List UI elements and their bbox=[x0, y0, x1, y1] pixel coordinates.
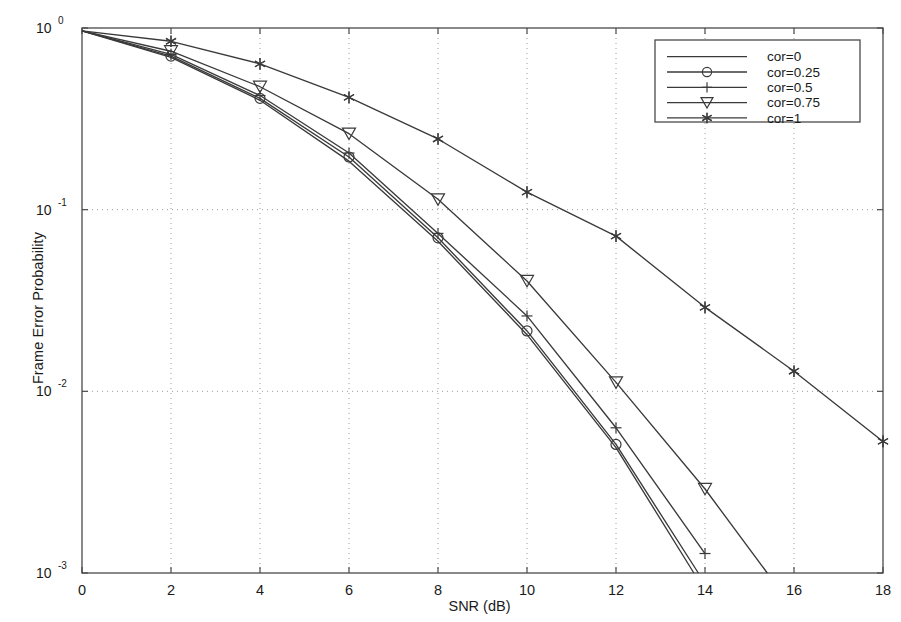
x-tick-label: 14 bbox=[697, 582, 713, 598]
x-tick-label: 4 bbox=[256, 582, 264, 598]
x-tick-label: 16 bbox=[786, 582, 802, 598]
x-tick-label: 6 bbox=[345, 582, 353, 598]
figure-root: 024681012141618 10010-110-210-3 cor=0cor… bbox=[0, 0, 901, 622]
y-tick-base: 10 bbox=[36, 20, 52, 36]
chart-figure: 024681012141618 10010-110-210-3 cor=0cor… bbox=[0, 0, 901, 622]
legend-label: cor=0 bbox=[767, 49, 801, 64]
series-cor-0 bbox=[82, 31, 694, 573]
x-tick-label: 8 bbox=[434, 582, 442, 598]
y-tick-base: 10 bbox=[36, 565, 52, 581]
series-line bbox=[82, 31, 698, 573]
legend-box bbox=[655, 40, 860, 122]
series-cor-0-25 bbox=[82, 31, 698, 573]
legend: cor=0cor=0.25cor=0.5cor=0.75cor=1 bbox=[655, 40, 860, 126]
legend-label: cor=0.75 bbox=[767, 95, 820, 110]
x-tick-label: 10 bbox=[519, 582, 535, 598]
y-axis-label: Frame Error Probability bbox=[30, 188, 46, 428]
x-tick-labels: 024681012141618 bbox=[78, 582, 891, 598]
series-line bbox=[82, 31, 694, 573]
y-tick-label: 100 bbox=[36, 15, 64, 36]
legend-label: cor=0.5 bbox=[767, 80, 812, 95]
y-tick-exponent: -1 bbox=[58, 197, 67, 208]
series-cor-0-5 bbox=[82, 31, 711, 559]
x-tick-label: 2 bbox=[167, 582, 175, 598]
x-tick-label: 12 bbox=[608, 582, 624, 598]
legend-label: cor=1 bbox=[767, 111, 801, 126]
x-tick-label: 0 bbox=[78, 582, 86, 598]
chart-svg: 024681012141618 10010-110-210-3 cor=0cor… bbox=[0, 0, 901, 622]
legend-label: cor=0.25 bbox=[767, 65, 820, 80]
x-axis-label: SNR (dB) bbox=[0, 598, 901, 614]
series-line bbox=[82, 31, 705, 554]
y-tick-label: 10-3 bbox=[36, 560, 67, 581]
y-tick-exponent: -2 bbox=[58, 378, 67, 389]
x-tick-label: 18 bbox=[875, 582, 891, 598]
x-axis-label-text: SNR (dB) bbox=[390, 598, 510, 614]
y-tick-exponent: -3 bbox=[58, 560, 67, 571]
y-tick-exponent: 0 bbox=[58, 15, 64, 26]
